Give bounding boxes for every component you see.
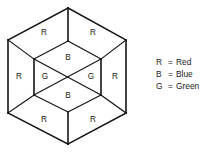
legend-key-g: G (156, 80, 165, 92)
legend-equals-red: = (165, 56, 176, 68)
region-label-left-outer: R (16, 72, 22, 81)
spoke-lines (8, 8, 126, 144)
region-label-lower-inner: B (65, 91, 71, 100)
inner-edge-bottom-left (34, 95, 68, 112)
legend-value-green: Green (176, 80, 199, 92)
outer-edge-top-right (68, 8, 126, 40)
hexagon-figure: R R B R G G R B R R (0, 0, 140, 154)
outer-edge-bottom-right (68, 113, 126, 144)
legend-row-blue: B = Blue (156, 68, 216, 80)
legend-equals-blue: = (165, 68, 176, 80)
region-label-bottom-right: R (90, 115, 96, 124)
outer-edge-top-left (8, 8, 68, 40)
spoke-lower-left (8, 95, 34, 113)
legend-key-r: R (156, 56, 165, 68)
region-label-bottom-left: R (41, 115, 47, 124)
legend-row-red: R = Red (156, 56, 216, 68)
inner-edge-top-right (68, 41, 101, 59)
region-label-right-inner: G (88, 72, 95, 81)
region-label-top-right: R (90, 28, 96, 37)
legend-value-blue: Blue (176, 68, 193, 80)
legend-value-red: Red (176, 56, 191, 68)
region-label-upper-inner: B (65, 53, 71, 62)
inner-edge-bottom-right (68, 95, 101, 112)
inner-edge-top-left (34, 41, 68, 59)
legend-key-b: B (156, 68, 165, 80)
outer-hexagon-outline (8, 8, 126, 144)
outer-edge-bottom-left (8, 113, 68, 144)
diagram-canvas: R R B R G G R B R R R = Red B = Blue G =… (0, 0, 216, 154)
region-label-top-left: R (41, 28, 47, 37)
spoke-upper-right (101, 40, 126, 59)
legend-equals-green: = (165, 80, 176, 92)
spoke-lower-right (101, 95, 126, 113)
legend: R = Red B = Blue G = Green (156, 56, 216, 92)
spoke-upper-left (8, 40, 34, 59)
legend-row-green: G = Green (156, 80, 216, 92)
region-label-left-inner: G (42, 72, 49, 81)
region-label-right-outer: R (112, 72, 118, 81)
